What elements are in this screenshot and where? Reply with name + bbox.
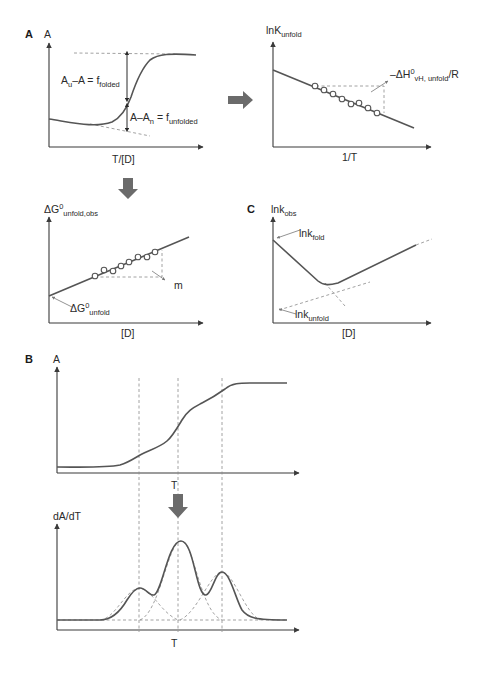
fold-extrapolation xyxy=(325,283,345,306)
y-axis-label: lnKunfold xyxy=(266,24,302,39)
panel-a-melt-plot: A A Au–A = ffolded A–An = funfolded T/[D… xyxy=(25,28,203,165)
x-axis-label: [D] xyxy=(121,327,135,339)
panel-b-derivative-plot: dA/dT T xyxy=(53,510,299,649)
upper-baseline xyxy=(74,53,175,54)
y-axis-label: ΔG0unfold,obs xyxy=(44,202,98,218)
down-arrow-icon xyxy=(118,178,138,199)
y-axis-label: A xyxy=(53,353,60,365)
panel-label-b: B xyxy=(25,353,33,365)
down-arrow-icon xyxy=(168,494,188,518)
y-axis-label: lnkobs xyxy=(271,203,297,218)
intercept-annotation: ΔG0unfold xyxy=(70,301,110,317)
panel-b-melt-plot: B A T xyxy=(25,353,299,632)
y-axis-label: A xyxy=(44,28,51,40)
panel-label-c: C xyxy=(247,203,255,215)
component-peak-3 xyxy=(180,572,260,620)
fold-pointer xyxy=(277,230,300,238)
slope-pointer xyxy=(152,271,165,280)
panel-a-vanthoff-plot: lnKunfold –ΔH0vH, unfold/R 1/T xyxy=(266,24,459,163)
unfold-annotation: lnkunfold xyxy=(295,308,329,323)
folded-annotation: Au–A = ffolded xyxy=(61,74,120,89)
panel-a-denaturant-plot: ΔG0unfold,obs m ΔG0unfold [D] xyxy=(44,202,203,339)
y-axis-label: dA/dT xyxy=(53,510,82,522)
x-axis-label: T xyxy=(171,637,178,649)
unfold-extrapolation-low xyxy=(279,282,370,310)
panel-label-a: A xyxy=(25,28,33,40)
right-arrow-icon xyxy=(228,91,253,109)
melt-curve xyxy=(57,383,287,467)
unfolded-annotation: A–An = funfolded xyxy=(130,111,198,126)
panel-c-chevron-plot: C lnkobs lnkfold lnkunfold [D] xyxy=(247,203,432,339)
slope-pointer xyxy=(371,81,388,92)
lower-baseline xyxy=(90,124,150,136)
unfold-extrapolation-high xyxy=(416,239,432,245)
x-axis-label: T xyxy=(171,479,178,491)
fold-annotation: lnkfold xyxy=(299,227,325,242)
slope-label: m xyxy=(174,279,183,291)
x-axis-label: 1/T xyxy=(342,151,358,163)
slope-annotation: –ΔH0vH, unfold/R xyxy=(390,67,459,83)
figure-canvas: A A Au–A = ffolded A–An = funfolded T/[D… xyxy=(0,0,478,673)
derivative-curve xyxy=(57,541,287,620)
component-peak-2 xyxy=(140,541,222,620)
unfold-pointer xyxy=(279,309,296,314)
melt-curve xyxy=(49,54,196,125)
x-axis-label: T/[D] xyxy=(112,153,135,165)
intercept-pointer xyxy=(52,297,72,307)
chevron-curve xyxy=(273,240,416,285)
x-axis-label: [D] xyxy=(342,327,356,339)
